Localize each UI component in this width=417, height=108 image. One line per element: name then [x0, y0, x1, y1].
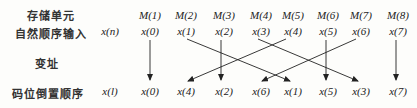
mapping-arrows: [0, 0, 417, 108]
